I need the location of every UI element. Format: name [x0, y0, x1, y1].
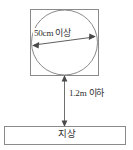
circle-outline — [32, 10, 98, 75]
height-arrow-icon — [62, 75, 68, 127]
diagram-canvas — [0, 0, 133, 150]
diameter-measurement-label: 50cm 이상 — [33, 28, 72, 39]
ground-label: 지상 — [0, 130, 133, 140]
diagram-root: 50cm 이상 1.2m 이하 지상 — [0, 0, 133, 150]
height-measurement-label: 1.2m 이하 — [68, 88, 105, 99]
